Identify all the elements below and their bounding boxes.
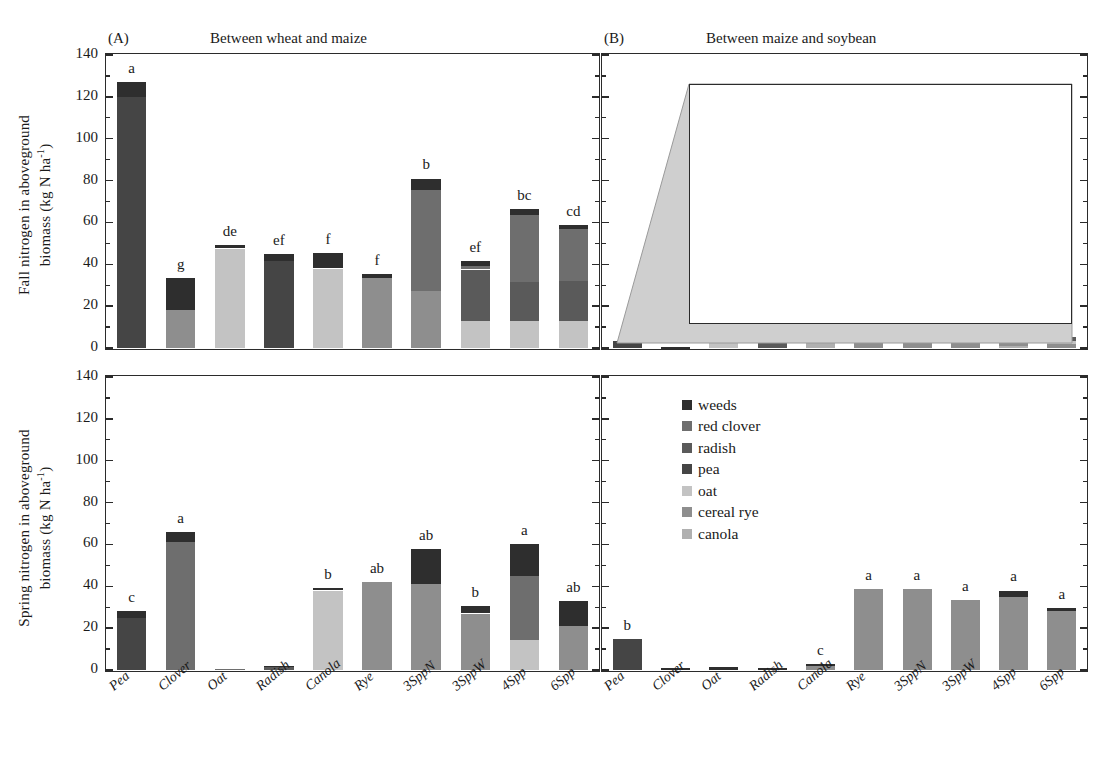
panel-letter-a: (A)	[108, 30, 129, 47]
panel-a-plot	[105, 53, 600, 350]
y-tick-label-A-140: 140	[58, 45, 98, 62]
panel-title-a: Between wheat and maize	[210, 30, 367, 47]
panel-c-plot	[105, 375, 600, 672]
legend-swatch-oat-icon	[682, 486, 692, 496]
y-tick-label-A-60: 60	[58, 212, 98, 229]
y-tick-label-A-80: 80	[58, 171, 98, 188]
y-axis-label-top: Fall nitrogen in abovegroundbiomass (kg …	[14, 55, 56, 355]
legend-label: cereal rye	[698, 503, 759, 521]
legend-label: pea	[698, 460, 720, 478]
y-axis-label-bottom: Spring nitrogen in abovegroundbiomass (k…	[14, 378, 56, 678]
y-tick-label-C-0: 0	[58, 660, 98, 677]
legend-swatch-pea-icon	[682, 464, 692, 474]
y-tick-label-C-60: 60	[58, 534, 98, 551]
panel-letter-b: (B)	[604, 30, 624, 47]
legend-item-radish: radish	[682, 437, 760, 459]
legend-label: weeds	[698, 396, 737, 414]
legend-swatch-radish-icon	[682, 443, 692, 453]
panel-b-inset-background	[689, 84, 1072, 324]
legend-item-red-clover: red clover	[682, 416, 760, 438]
y-tick-label-A-100: 100	[58, 129, 98, 146]
y-tick-label-C-40: 40	[58, 576, 98, 593]
legend-swatch-red-clover-icon	[682, 421, 692, 431]
figure-root: Fall nitrogen in abovegroundbiomass (kg …	[0, 0, 1096, 762]
legend-item-pea: pea	[682, 459, 760, 481]
legend-label: radish	[698, 439, 736, 457]
y-tick-label-C-120: 120	[58, 409, 98, 426]
y-tick-label-C-140: 140	[58, 367, 98, 384]
y-tick-label-A-0: 0	[58, 338, 98, 355]
y-tick-label-A-120: 120	[58, 87, 98, 104]
legend-swatch-canola-icon	[682, 529, 692, 539]
y-tick-label-C-100: 100	[58, 451, 98, 468]
y-tick-label-A-40: 40	[58, 254, 98, 271]
y-tick-label-C-20: 20	[58, 618, 98, 635]
panel-d-plot	[601, 375, 1088, 672]
legend-label: canola	[698, 525, 738, 543]
legend-swatch-weeds-icon	[682, 400, 692, 410]
x-tick-label-D-Oat: Oat	[698, 669, 724, 695]
x-tick-label-C-Oat: Oat	[204, 669, 230, 695]
y-tick-label-A-20: 20	[58, 296, 98, 313]
legend-item-canola: canola	[682, 523, 760, 545]
legend-item-weeds: weeds	[682, 394, 760, 416]
x-tick-label-D-Rye: Rye	[843, 669, 869, 695]
legend-item-oat: oat	[682, 480, 760, 502]
legend-swatch-cereal-rye-icon	[682, 507, 692, 517]
legend: weedsred cloverradishpeaoatcereal ryecan…	[682, 394, 760, 545]
legend-label: red clover	[698, 417, 760, 435]
legend-item-cereal-rye: cereal rye	[682, 502, 760, 524]
x-tick-label-C-Rye: Rye	[351, 669, 377, 695]
y-tick-label-C-80: 80	[58, 493, 98, 510]
legend-label: oat	[698, 482, 717, 500]
panel-title-b: Between maize and soybean	[706, 30, 876, 47]
